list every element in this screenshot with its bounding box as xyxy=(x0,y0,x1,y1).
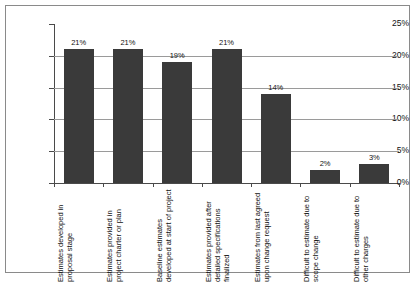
x-category-label: Difficult to estimate due to scope chang… xyxy=(302,188,347,282)
bar[interactable] xyxy=(162,62,192,183)
x-tick-mark xyxy=(103,183,104,187)
bar-value-label: 3% xyxy=(351,154,397,162)
bar-value-label: 19% xyxy=(154,52,200,60)
x-category-label: Baseline estimates developed at start of… xyxy=(155,188,200,282)
x-tick-mark xyxy=(153,183,154,187)
x-category-label: Estimates developed in proposal stage xyxy=(56,188,101,282)
x-axis-line xyxy=(54,183,400,184)
bar[interactable] xyxy=(113,49,143,183)
bar[interactable] xyxy=(310,170,340,183)
x-tick-mark xyxy=(350,183,351,187)
x-category-label: Estimates from last agreed upon change r… xyxy=(253,188,298,282)
chart-frame: 0%5%10%15%20%25% 21%21%19%21%14%2%3% Est… xyxy=(5,5,410,273)
bar[interactable] xyxy=(261,94,291,183)
x-tick-mark xyxy=(300,183,301,187)
bar[interactable] xyxy=(359,164,389,183)
x-category-label: Estimates provided after detailed specif… xyxy=(204,188,249,282)
x-tick-mark xyxy=(54,183,55,187)
bar-value-label: 21% xyxy=(56,39,102,47)
bar-value-label: 21% xyxy=(204,39,250,47)
bar-value-label: 14% xyxy=(253,84,299,92)
x-category-label: Estimates provided in project charter or… xyxy=(105,188,150,282)
bar-value-label: 21% xyxy=(105,39,151,47)
x-tick-mark xyxy=(202,183,203,187)
bar[interactable] xyxy=(64,49,94,183)
plot-area: 21%21%19%21%14%2%3% xyxy=(54,24,399,183)
x-tick-mark xyxy=(251,183,252,187)
x-category-label: Difficult to estimate due to other charg… xyxy=(352,188,397,282)
bar-value-label: 2% xyxy=(302,160,348,168)
x-tick-mark xyxy=(399,183,400,187)
bar[interactable] xyxy=(212,49,242,183)
